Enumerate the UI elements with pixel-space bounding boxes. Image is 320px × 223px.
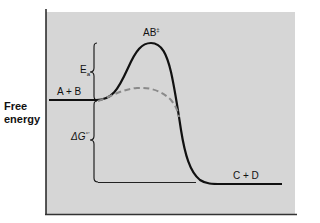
reactants-label: A + B: [57, 86, 81, 97]
free-energy-change-label: ΔG°′: [71, 131, 89, 142]
free-energy-change-text: ΔG: [71, 131, 86, 142]
activation-energy-text: E: [80, 64, 87, 75]
activation-energy-label: Ea: [80, 64, 90, 77]
activation-energy-subscript: a: [87, 71, 90, 77]
free-energy-change-superscript: °′: [86, 131, 90, 137]
transition-state-label: AB‡: [143, 27, 160, 38]
transition-state-text: AB: [143, 27, 156, 38]
products-label: C + D: [233, 170, 259, 181]
transition-state-superscript: ‡: [156, 27, 159, 33]
